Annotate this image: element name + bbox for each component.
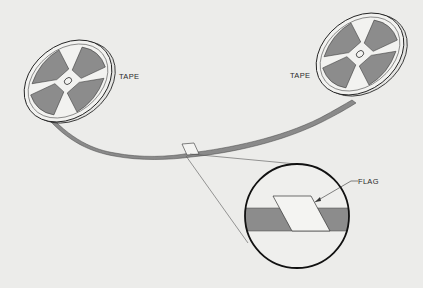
magnifier-inset — [240, 164, 360, 268]
flag-label: FLAG — [358, 177, 379, 186]
tape-flag-diagram: TAPE TAPE FLAG — [0, 0, 423, 288]
right-reel — [300, 0, 423, 114]
flag-on-tape — [182, 143, 199, 155]
left-tape-label: TAPE — [119, 72, 139, 81]
right-tape-label: TAPE — [290, 71, 310, 80]
left-reel — [8, 22, 131, 141]
diagram-canvas — [0, 0, 423, 288]
